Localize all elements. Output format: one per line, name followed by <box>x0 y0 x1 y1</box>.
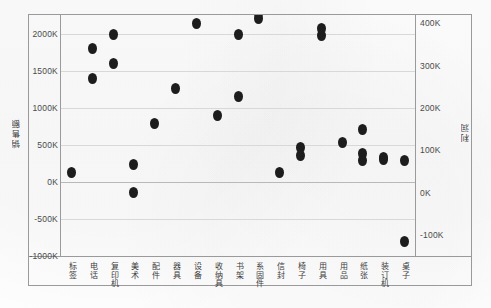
data-point[interactable] <box>88 73 97 84</box>
data-point[interactable] <box>129 159 138 170</box>
left-tick-label: 1000K <box>0 103 58 113</box>
gridline <box>61 108 415 109</box>
data-point[interactable] <box>150 118 159 129</box>
gridline <box>61 71 415 72</box>
x-category-label: 电话 <box>88 262 96 279</box>
gridline <box>61 219 415 220</box>
x-category-label: 纸张 <box>359 262 367 279</box>
x-category-label: 配件 <box>151 262 159 279</box>
x-category-label: 椅子 <box>296 262 304 279</box>
data-point[interactable] <box>192 18 201 29</box>
data-point[interactable] <box>296 150 305 161</box>
x-category-label: 桌子 <box>401 262 409 279</box>
left-tick-label: -500K <box>0 214 58 224</box>
x-category-label: 收纳具 <box>213 262 221 288</box>
left-tick-label: 500K <box>0 140 58 150</box>
data-point[interactable] <box>88 43 97 54</box>
data-point[interactable] <box>129 187 138 198</box>
data-point[interactable] <box>109 58 118 69</box>
data-point[interactable] <box>234 91 243 102</box>
data-point[interactable] <box>400 236 409 247</box>
right-tick-label: 300K <box>420 61 466 71</box>
data-point[interactable] <box>317 23 326 34</box>
right-tick-label: -100K <box>420 230 466 240</box>
x-category-label: 信封 <box>276 262 284 279</box>
x-category-label: 用具 <box>317 262 325 279</box>
x-category-label: 系固件 <box>255 262 263 288</box>
data-point[interactable] <box>67 167 76 178</box>
data-point[interactable] <box>213 110 222 121</box>
data-point[interactable] <box>379 154 388 165</box>
right-axis-tick-labels: 400K300K200K100K0K-100K <box>420 0 466 308</box>
data-point[interactable] <box>400 155 409 166</box>
data-point[interactable] <box>234 29 243 40</box>
data-point[interactable] <box>358 124 367 135</box>
x-axis-rule <box>28 256 472 257</box>
x-category-label: 标签 <box>67 262 75 279</box>
x-category-label: 复印机 <box>109 262 117 288</box>
gridline <box>61 182 415 183</box>
right-tick-label: 0K <box>420 188 466 198</box>
left-tick-label: 0K <box>0 177 58 187</box>
right-tick-label: 200K <box>420 103 466 113</box>
x-category-label: 书架 <box>234 262 242 279</box>
data-point[interactable] <box>171 83 180 94</box>
x-category-label: 设备 <box>192 262 200 279</box>
x-category-label: 器具 <box>172 262 180 279</box>
left-axis-title: 销售额 <box>11 118 23 148</box>
scatter-plot-area <box>61 15 415 256</box>
left-tick-label: -1000K <box>0 251 58 261</box>
right-axis-rule <box>415 14 416 256</box>
left-tick-label: 2000K <box>0 29 58 39</box>
x-category-label: 美术 <box>130 262 138 279</box>
right-tick-label: 100K <box>420 145 466 155</box>
left-axis-tick-labels: 2000K1500K1000K500K0K-500K-1000K <box>0 0 58 308</box>
x-category-label: 用品 <box>338 262 346 279</box>
data-point[interactable] <box>275 167 284 178</box>
data-point[interactable] <box>109 29 118 40</box>
x-category-label: 装订机 <box>380 262 388 288</box>
right-axis-title: 利润 <box>460 122 472 142</box>
gridline <box>61 145 415 146</box>
data-point[interactable] <box>338 137 347 148</box>
left-tick-label: 1500K <box>0 66 58 76</box>
right-tick-label: 400K <box>420 18 466 28</box>
